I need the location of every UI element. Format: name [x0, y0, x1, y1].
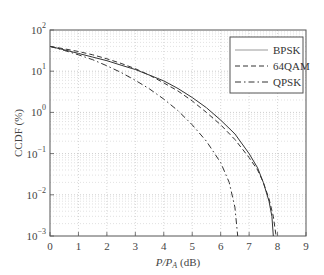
ccdf-chart: 0123456789 10210110010−110−210−3 P/PA (d…: [0, 0, 324, 275]
legend-label-qpsk: QPSK: [273, 76, 301, 88]
x-tick-label: 3: [133, 240, 139, 252]
legend-label-64qam: 64QAM: [273, 60, 310, 72]
legend-label-bpsk: BPSK: [273, 44, 301, 56]
legend: BPSK64QAMQPSK: [230, 37, 310, 93]
y-tick-labels: 10210110010−110−210−3: [26, 21, 46, 242]
y-tick-label: 10−2: [26, 186, 46, 201]
x-tick-label: 8: [275, 240, 281, 252]
x-tick-label: 9: [303, 240, 309, 252]
y-tick-label: 10−3: [26, 227, 46, 242]
y-tick-label: 102: [31, 21, 46, 36]
y-tick-label: 100: [31, 103, 46, 118]
x-tick-label: 0: [47, 240, 53, 252]
y-tick-label: 101: [31, 62, 46, 77]
x-tick-label: 4: [161, 240, 167, 252]
x-tick-label: 7: [246, 240, 252, 252]
x-axis-label: P/PA (dB): [155, 256, 201, 270]
x-tick-label: 6: [218, 240, 224, 252]
y-tick-label: 10−1: [26, 145, 46, 160]
x-tick-labels: 0123456789: [47, 240, 309, 252]
x-tick-label: 2: [104, 240, 110, 252]
x-tick-label: 5: [189, 240, 195, 252]
y-axis-label: CCDF (%): [12, 109, 25, 157]
x-tick-label: 1: [76, 240, 82, 252]
